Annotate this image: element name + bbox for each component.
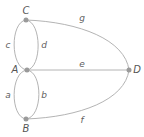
edge-b <box>26 70 39 119</box>
edge-c <box>14 20 27 70</box>
edge-label-b: b <box>41 90 47 100</box>
vertex-label-C: C <box>23 5 30 16</box>
graph-diagram: C A B D a b c d e f g <box>0 0 144 137</box>
edge-label-c: c <box>6 40 11 50</box>
vertex-label-B: B <box>23 123 30 134</box>
vertex-C <box>24 18 29 23</box>
edge-label-d: d <box>41 40 47 50</box>
edge-a <box>14 70 27 119</box>
vertex-A <box>25 68 30 73</box>
edge-label-a: a <box>5 90 11 100</box>
edge-label-g: g <box>79 13 85 23</box>
vertex-label-D: D <box>133 64 141 75</box>
edge-label-f: f <box>80 115 85 125</box>
vertex-B <box>24 117 29 122</box>
edge-d <box>26 20 38 70</box>
vertex-D <box>127 68 132 73</box>
edge-label-e: e <box>79 59 85 69</box>
vertex-label-A: A <box>11 64 19 75</box>
